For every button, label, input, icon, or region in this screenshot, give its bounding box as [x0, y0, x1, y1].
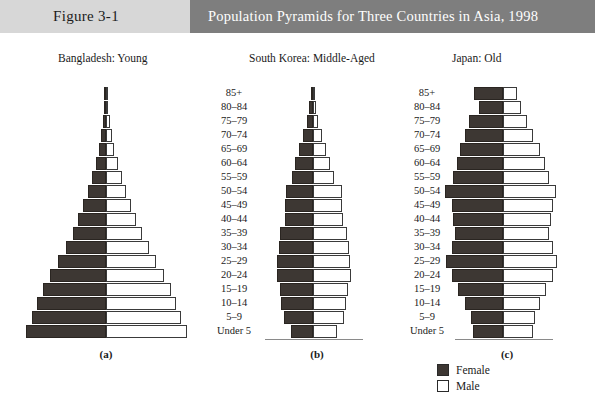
bar-male [313, 255, 350, 268]
legend-item-female: Female [437, 362, 490, 378]
legend-label-female: Female [456, 364, 490, 376]
bar-male [106, 213, 136, 226]
bar-female [458, 283, 503, 296]
age-label: 20–24 [396, 268, 458, 282]
bar-female [446, 255, 503, 268]
bar-male [313, 325, 337, 338]
bar-male [503, 255, 557, 268]
bar-female [285, 199, 313, 212]
age-label: 5–9 [396, 310, 458, 324]
bar-male [503, 241, 553, 254]
bar-female [83, 199, 106, 212]
bar-male [106, 255, 156, 268]
bar-female [295, 157, 313, 170]
bar-female [460, 143, 503, 156]
bar-male [106, 101, 108, 114]
age-label: 60–64 [203, 156, 265, 170]
bar-male [313, 143, 326, 156]
bar-female [43, 283, 106, 296]
bar-female [455, 227, 503, 240]
bar-female [471, 311, 503, 324]
bar-male [313, 129, 322, 142]
bar-male [503, 199, 553, 212]
bar-female [92, 171, 106, 184]
age-label: 55–59 [396, 170, 458, 184]
age-label: 15–19 [396, 282, 458, 296]
bar-female [279, 241, 313, 254]
bar-male [106, 311, 181, 324]
bar-female [303, 129, 313, 142]
age-label: 85+ [396, 86, 458, 100]
age-label: 35–39 [396, 226, 458, 240]
bar-male [106, 185, 126, 198]
figure-title-label: Population Pyramids for Three Countries … [208, 8, 538, 25]
bar-female [453, 213, 503, 226]
bar-male [313, 241, 349, 254]
age-label: Under 5 [396, 324, 458, 338]
bar-female [277, 255, 313, 268]
age-label: 25–29 [203, 254, 265, 268]
bar-male [503, 283, 546, 296]
age-axis-left: 85+80–8475–7970–7465–6960–6455–5950–5445… [203, 86, 265, 338]
bar-female [26, 325, 106, 338]
bar-male [503, 129, 533, 142]
bar-female [453, 171, 503, 184]
bar-male [106, 241, 149, 254]
pyramid-baseline [455, 339, 553, 340]
age-label: 70–74 [203, 128, 265, 142]
country-label-japan: Japan: Old [452, 52, 502, 64]
bar-male [313, 87, 315, 100]
pyramid-baseline [265, 339, 363, 340]
age-label: 70–74 [396, 128, 458, 142]
age-label: 80–84 [396, 100, 458, 114]
bar-female [277, 269, 313, 282]
figure-header: Figure 3-1 Population Pyramids for Three… [0, 0, 595, 33]
age-label: 55–59 [203, 170, 265, 184]
country-label-south-korea: South Korea: Middle-Aged [249, 52, 375, 64]
age-label: 45–49 [396, 198, 458, 212]
age-label: Under 5 [203, 324, 265, 338]
age-label: 35–39 [203, 226, 265, 240]
bar-female [474, 87, 503, 100]
bar-female [292, 171, 313, 184]
bar-male [313, 283, 348, 296]
age-label: 65–69 [203, 142, 265, 156]
age-label: 30–34 [396, 240, 458, 254]
bar-female [465, 297, 503, 310]
age-label: 75–79 [203, 114, 265, 128]
country-label-bangladesh: Bangladesh: Young [58, 52, 147, 64]
age-label: 50–54 [203, 184, 265, 198]
bar-male [503, 143, 540, 156]
bar-female [469, 115, 503, 128]
bar-female [457, 157, 503, 170]
bar-female [465, 129, 503, 142]
bar-male [503, 269, 553, 282]
bar-male [313, 157, 330, 170]
bar-female [445, 185, 503, 198]
bar-male [503, 87, 517, 100]
bar-female [99, 143, 106, 156]
bar-male [503, 213, 551, 226]
bar-male [106, 129, 112, 142]
bar-female [73, 227, 106, 240]
bar-male [313, 115, 318, 128]
bar-male [313, 171, 334, 184]
bar-female [291, 325, 313, 338]
bar-male [106, 325, 187, 338]
bar-female [452, 269, 503, 282]
age-label: 10–14 [203, 296, 265, 310]
age-label: 10–14 [396, 296, 458, 310]
bar-female [96, 157, 106, 170]
legend-label-male: Male [456, 380, 480, 392]
age-label: 75–79 [396, 114, 458, 128]
bar-female [284, 311, 313, 324]
legend-swatch-female-icon [437, 364, 449, 376]
age-label: 40–44 [396, 212, 458, 226]
age-label: 60–64 [396, 156, 458, 170]
age-label: 80–84 [203, 100, 265, 114]
bar-male [313, 297, 346, 310]
subcaption-b: (b) [297, 348, 337, 360]
bar-female [280, 283, 313, 296]
bar-female [285, 213, 313, 226]
age-label: 5–9 [203, 310, 265, 324]
